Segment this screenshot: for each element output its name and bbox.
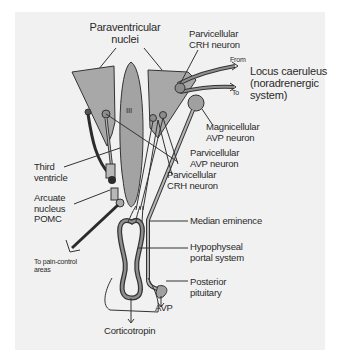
label-line: pituitary <box>190 288 226 299</box>
label-line: Parvicellular <box>190 148 239 159</box>
label-line: portal system <box>190 253 244 264</box>
label-line: Arcuate <box>34 193 65 204</box>
label-line: nuclei <box>84 33 166 45</box>
label-line: Magnicellular <box>206 122 259 133</box>
label-avp: AVP <box>155 303 173 314</box>
label-line: To pain-control <box>34 258 77 266</box>
label-median-eminence: Median eminence <box>190 216 262 227</box>
magnicellular-avp-neuron <box>188 95 204 111</box>
label-magnicellular-avp: Magnicellular AVP neuron <box>206 122 259 143</box>
label-parvicellular-crh-mid: Parvicellular CRH neuron <box>167 170 218 191</box>
pomc-projection <box>72 205 118 248</box>
label-line: (noradrenergic <box>250 77 327 89</box>
label-line: AVP neuron <box>206 133 259 144</box>
third-ventricle-shape <box>120 62 143 207</box>
label-line: Posterior <box>190 277 226 288</box>
label-paraventricular-nuclei: Paraventricular nuclei <box>84 21 166 45</box>
label-line: Locus caeruleus <box>250 65 327 77</box>
label-line: ventricle <box>34 173 68 184</box>
label-from: From <box>230 56 246 64</box>
label-line: AVP neuron <box>190 159 239 170</box>
label-corticotropin: Corticotropin <box>104 326 155 337</box>
label-to-pain-control: To pain-control areas <box>34 258 77 274</box>
label-locus-caeruleus: Locus caeruleus (noradrenergic system) <box>250 65 327 101</box>
right-leader-lines <box>138 221 188 281</box>
label-parvicellular-crh-top: Parvicellular CRH neuron <box>189 29 240 50</box>
label-third-ventricle-marker: III <box>126 106 132 117</box>
label-posterior-pituitary: Posterior pituitary <box>190 277 226 298</box>
label-line: Paraventricular <box>84 21 166 33</box>
label-line: Parvicellular <box>189 29 240 40</box>
label-hypophyseal-portal-system: Hypophyseal portal system <box>190 242 244 263</box>
label-arcuate-nucleus: Arcuate nucleus POMC <box>34 193 65 225</box>
label-line: CRH neuron <box>189 40 240 51</box>
label-line: Third <box>34 162 68 173</box>
parvicellular-crh-neuron-top <box>175 83 185 93</box>
label-line: CRH neuron <box>167 181 218 192</box>
label-line: Parvicellular <box>167 170 218 181</box>
label-line: system) <box>250 89 327 101</box>
label-third-ventricle: Third ventricle <box>34 162 68 183</box>
anterior-pituitary-outline <box>105 278 158 312</box>
label-line: areas <box>34 266 77 274</box>
label-parvicellular-avp: Parvicellular AVP neuron <box>190 148 239 169</box>
label-to: To <box>232 89 239 97</box>
label-line: POMC <box>34 214 65 225</box>
label-line: Hypophyseal <box>190 242 244 253</box>
